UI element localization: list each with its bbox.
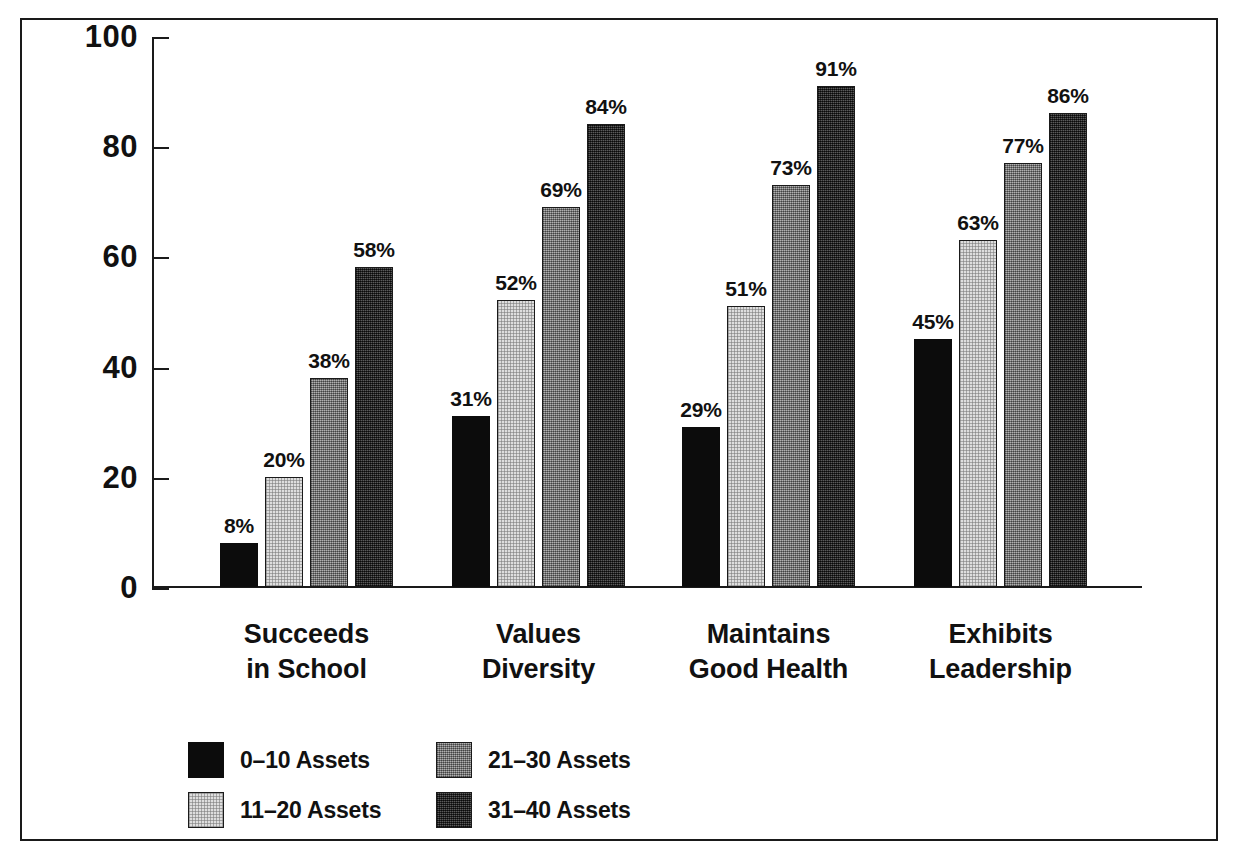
legend-item[interactable]: 31–40 Assets xyxy=(436,792,631,828)
bar[interactable]: 20% xyxy=(265,477,303,587)
x-axis-category-label: Succeedsin School xyxy=(190,617,423,686)
category-label-line: Good Health xyxy=(652,652,885,687)
bar-value-label: 91% xyxy=(815,57,856,81)
bar[interactable]: 52% xyxy=(497,300,535,587)
bar-value-label: 77% xyxy=(1002,134,1043,158)
x-axis-category-labels: Succeedsin SchoolValuesDiversityMaintain… xyxy=(154,617,1144,709)
bar-value-label: 29% xyxy=(680,398,721,422)
legend-item-label: 0–10 Assets xyxy=(240,747,370,774)
bar[interactable]: 84% xyxy=(587,124,625,587)
bar-value-label: 58% xyxy=(353,238,394,262)
y-axis-tick-label: 60 xyxy=(103,240,138,276)
chart-frame: 020406080100 8%20%38%58%31%52%69%84%29%5… xyxy=(20,18,1218,841)
bar[interactable]: 51% xyxy=(727,306,765,587)
x-axis-category-label: ValuesDiversity xyxy=(422,617,655,686)
legend-item[interactable]: 11–20 Assets xyxy=(188,792,381,828)
bar-value-label: 8% xyxy=(224,514,254,538)
bar-value-label: 20% xyxy=(263,448,304,472)
chart-legend: 0–10 Assets11–20 Assets21–30 Assets31–40… xyxy=(188,742,708,842)
black-swatch xyxy=(188,742,224,778)
bar-group: 31%52%69%84% xyxy=(452,36,625,587)
bar[interactable]: 77% xyxy=(1004,163,1042,587)
legend-item-label: 11–20 Assets xyxy=(240,797,381,824)
bar[interactable]: 63% xyxy=(959,240,997,587)
category-label-line: Leadership xyxy=(884,652,1117,687)
bar[interactable]: 31% xyxy=(452,416,490,587)
category-label-line: Maintains xyxy=(652,617,885,652)
plot-area: 020406080100 8%20%38%58%31%52%69%84%29%5… xyxy=(152,37,1142,605)
category-label-line: Diversity xyxy=(422,652,655,687)
y-axis-tick-label: 40 xyxy=(103,350,138,386)
bar[interactable]: 86% xyxy=(1049,113,1087,587)
bar-value-label: 38% xyxy=(308,349,349,373)
x-axis-category-label: MaintainsGood Health xyxy=(652,617,885,686)
legend-item[interactable]: 0–10 Assets xyxy=(188,742,370,778)
bar-value-label: 45% xyxy=(912,310,953,334)
light-gray-swatch xyxy=(188,792,224,828)
y-axis-tick-label: 80 xyxy=(103,129,138,165)
y-axis-tick-label: 20 xyxy=(103,460,138,496)
bar[interactable]: 29% xyxy=(682,427,720,587)
category-label-line: in School xyxy=(190,652,423,687)
bar[interactable]: 45% xyxy=(914,339,952,587)
bar-group: 8%20%38%58% xyxy=(220,36,393,587)
bar-value-label: 51% xyxy=(725,277,766,301)
y-axis-tick-label: 0 xyxy=(120,570,138,606)
category-label-line: Exhibits xyxy=(884,617,1117,652)
bar[interactable]: 73% xyxy=(772,185,810,587)
legend-item[interactable]: 21–30 Assets xyxy=(436,742,631,778)
bar-value-label: 84% xyxy=(585,95,626,119)
bar-value-label: 31% xyxy=(450,387,491,411)
bar-value-label: 52% xyxy=(495,271,536,295)
bar[interactable]: 8% xyxy=(220,543,258,587)
y-axis-tick-mark: 0 xyxy=(152,588,169,590)
bar-group: 29%51%73%91% xyxy=(682,36,855,587)
bar[interactable]: 69% xyxy=(542,207,580,587)
bar-groups: 8%20%38%58%31%52%69%84%29%51%73%91%45%63… xyxy=(154,36,1142,587)
bar-value-label: 86% xyxy=(1047,84,1088,108)
bar-value-label: 69% xyxy=(540,178,581,202)
bar[interactable]: 38% xyxy=(310,378,348,587)
medium-gray-swatch xyxy=(436,742,472,778)
y-axis-tick-label: 100 xyxy=(85,19,138,55)
bar[interactable]: 91% xyxy=(817,86,855,587)
category-label-line: Succeeds xyxy=(190,617,423,652)
legend-item-label: 21–30 Assets xyxy=(488,747,631,774)
x-axis-category-label: ExhibitsLeadership xyxy=(884,617,1117,686)
legend-item-label: 31–40 Assets xyxy=(488,797,631,824)
bar[interactable]: 58% xyxy=(355,267,393,587)
bar-group: 45%63%77%86% xyxy=(914,36,1087,587)
bar-value-label: 63% xyxy=(957,211,998,235)
dark-gray-swatch xyxy=(436,792,472,828)
bar-value-label: 73% xyxy=(770,156,811,180)
category-label-line: Values xyxy=(422,617,655,652)
